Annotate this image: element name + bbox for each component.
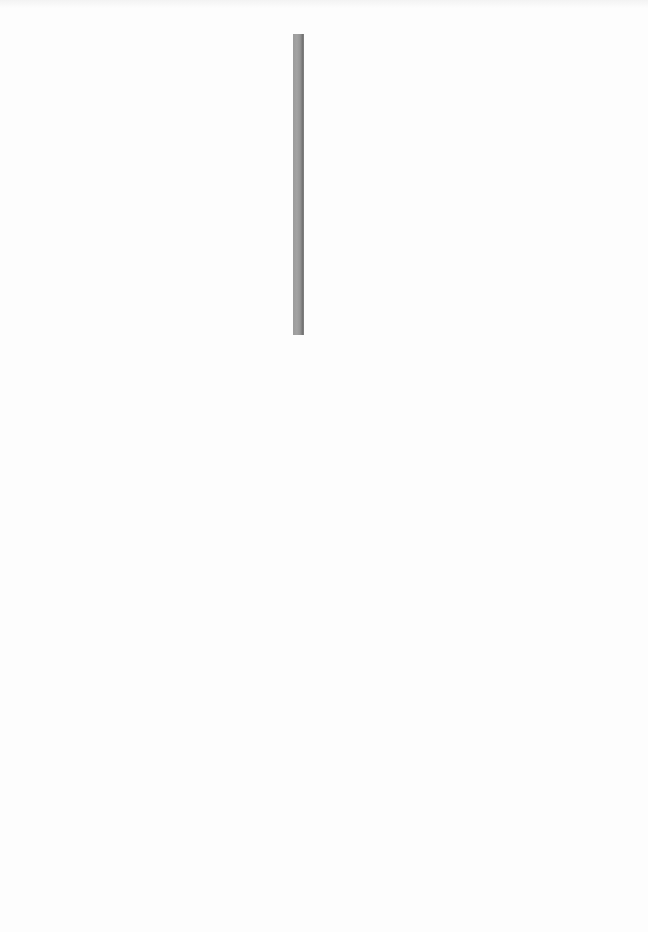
vertical-gray-bar xyxy=(293,34,304,335)
scanned-page xyxy=(0,0,648,932)
page-top-edge xyxy=(0,0,648,8)
